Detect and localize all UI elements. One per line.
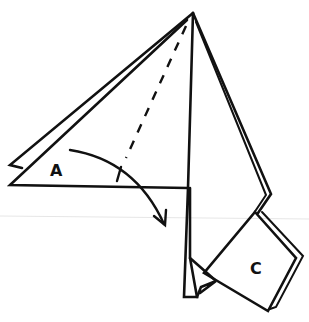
right-inner-edge bbox=[196, 22, 266, 213]
flap-a-back-layer bbox=[10, 13, 193, 168]
center-lower-strip bbox=[184, 188, 197, 297]
center-edge bbox=[184, 13, 197, 297]
origami-diagram: A C bbox=[0, 0, 309, 322]
center-vertical-line bbox=[188, 13, 193, 188]
flap-c bbox=[190, 212, 303, 311]
valley-fold-line bbox=[126, 26, 186, 158]
flap-a bbox=[10, 13, 193, 188]
flap-a-front-layer bbox=[10, 20, 188, 188]
label-a: A bbox=[50, 161, 63, 180]
right-body bbox=[193, 13, 271, 213]
label-c: C bbox=[250, 259, 262, 278]
